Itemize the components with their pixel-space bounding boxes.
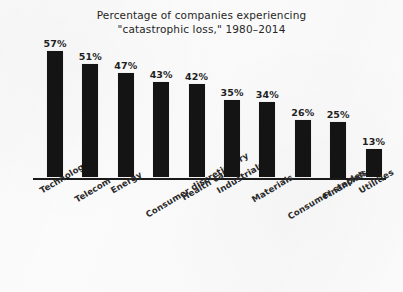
bar-value-label: 51% [74, 51, 106, 62]
bar-value-label: 25% [322, 109, 354, 120]
bar [153, 82, 169, 177]
bar-value-label: 34% [251, 89, 283, 100]
chart-figure: Percentage of companies experiencing "ca… [0, 0, 403, 292]
bar [118, 73, 134, 177]
bar-value-label: 35% [216, 87, 248, 98]
bar-value-label: 47% [110, 60, 142, 71]
bar [82, 64, 98, 177]
bar [224, 100, 240, 178]
bar [189, 84, 205, 177]
bar-value-label: 26% [287, 107, 319, 118]
bar-value-label: 42% [181, 71, 213, 82]
bar [295, 120, 311, 178]
bar [259, 102, 275, 177]
bar-value-label: 57% [39, 38, 71, 49]
bar [47, 51, 63, 178]
bar-value-label: 13% [358, 136, 390, 147]
bar [330, 122, 346, 178]
plot-area: 57%Technology51%Telecom47%Energy43%Consu… [0, 0, 403, 292]
bar-value-label: 43% [145, 69, 177, 80]
